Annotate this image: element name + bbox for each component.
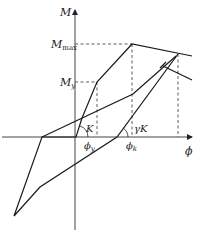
gamma-k-angle-arc [123, 128, 128, 137]
m-y-label: My [59, 76, 76, 90]
phi-k-label: ϕk [126, 140, 137, 153]
unloading-branch [163, 66, 192, 80]
gamma-k-label: γK [134, 123, 148, 134]
x-axis-label: ϕ [185, 145, 193, 158]
hysteresis-diagram: M ϕ Mmax My ϕy ϕk K γK [0, 0, 199, 234]
k-label: K [85, 123, 94, 134]
diagram-canvas: M ϕ Mmax My ϕy ϕk K γK [0, 0, 199, 234]
y-axis-label: M [59, 6, 72, 19]
phi-y-label: ϕy [84, 140, 96, 153]
skeleton-curve [82, 44, 192, 118]
reloading-branch [14, 54, 178, 216]
m-max-label: Mmax [50, 38, 77, 52]
